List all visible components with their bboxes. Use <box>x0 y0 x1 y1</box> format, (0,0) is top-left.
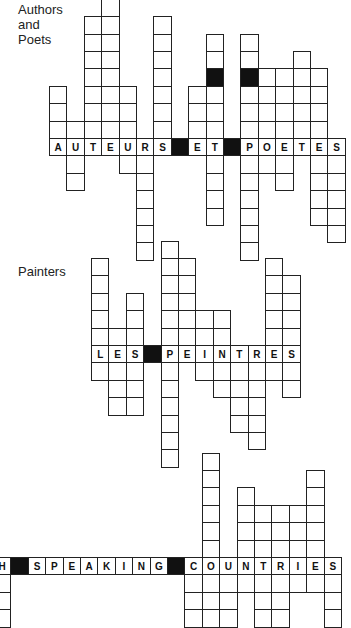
empty-cell[interactable] <box>126 310 144 328</box>
empty-cell[interactable] <box>324 574 342 592</box>
empty-cell[interactable] <box>237 505 255 523</box>
empty-cell[interactable] <box>66 173 84 191</box>
letter-cell[interactable]: R <box>271 557 289 575</box>
letter-cell[interactable]: T <box>230 345 248 363</box>
empty-cell[interactable] <box>136 173 154 191</box>
empty-cell[interactable] <box>254 540 272 558</box>
empty-cell[interactable] <box>0 574 11 592</box>
empty-cell[interactable] <box>310 173 328 191</box>
empty-cell[interactable] <box>101 68 119 86</box>
empty-cell[interactable] <box>91 258 109 276</box>
empty-cell[interactable] <box>230 415 248 433</box>
empty-cell[interactable] <box>237 487 255 505</box>
empty-cell[interactable] <box>275 68 293 86</box>
empty-cell[interactable] <box>240 51 258 69</box>
empty-cell[interactable] <box>254 592 272 610</box>
empty-cell[interactable] <box>119 86 137 104</box>
empty-cell[interactable] <box>91 362 109 380</box>
empty-cell[interactable] <box>310 190 328 208</box>
letter-cell[interactable]: E <box>63 557 81 575</box>
empty-cell[interactable] <box>161 415 179 433</box>
empty-cell[interactable] <box>161 258 179 276</box>
empty-cell[interactable] <box>108 380 126 398</box>
empty-cell[interactable] <box>153 34 171 52</box>
empty-cell[interactable] <box>202 574 220 592</box>
letter-cell[interactable]: A <box>49 138 67 156</box>
empty-cell[interactable] <box>265 275 283 293</box>
empty-cell[interactable] <box>289 505 307 523</box>
letter-cell[interactable]: C <box>184 557 202 575</box>
empty-cell[interactable] <box>84 68 102 86</box>
empty-cell[interactable] <box>230 397 248 415</box>
empty-cell[interactable] <box>153 103 171 121</box>
empty-cell[interactable] <box>84 51 102 69</box>
empty-cell[interactable] <box>161 310 179 328</box>
empty-cell[interactable] <box>213 362 231 380</box>
empty-cell[interactable] <box>293 103 311 121</box>
empty-cell[interactable] <box>188 121 206 139</box>
empty-cell[interactable] <box>153 51 171 69</box>
empty-cell[interactable] <box>275 155 293 173</box>
letter-cell[interactable]: S <box>28 557 46 575</box>
empty-cell[interactable] <box>178 258 196 276</box>
empty-cell[interactable] <box>202 505 220 523</box>
empty-cell[interactable] <box>126 397 144 415</box>
empty-cell[interactable] <box>310 68 328 86</box>
empty-cell[interactable] <box>101 51 119 69</box>
empty-cell[interactable] <box>282 380 300 398</box>
letter-cell[interactable]: T <box>206 138 224 156</box>
empty-cell[interactable] <box>84 16 102 34</box>
empty-cell[interactable] <box>275 173 293 191</box>
empty-cell[interactable] <box>271 609 289 627</box>
letter-cell[interactable]: S <box>282 345 300 363</box>
letter-cell[interactable]: E <box>101 138 119 156</box>
letter-cell[interactable]: G <box>150 557 168 575</box>
empty-cell[interactable] <box>230 362 248 380</box>
empty-cell[interactable] <box>258 86 276 104</box>
empty-cell[interactable] <box>271 592 289 610</box>
empty-cell[interactable] <box>84 34 102 52</box>
letter-cell[interactable]: E <box>306 557 324 575</box>
letter-cell[interactable]: E <box>188 138 206 156</box>
empty-cell[interactable] <box>293 68 311 86</box>
empty-cell[interactable] <box>265 328 283 346</box>
empty-cell[interactable] <box>213 380 231 398</box>
empty-cell[interactable] <box>327 190 345 208</box>
empty-cell[interactable] <box>248 415 266 433</box>
empty-cell[interactable] <box>178 293 196 311</box>
letter-cell[interactable]: A <box>80 557 98 575</box>
letter-cell[interactable]: I <box>115 557 133 575</box>
empty-cell[interactable] <box>327 155 345 173</box>
empty-cell[interactable] <box>184 592 202 610</box>
empty-cell[interactable] <box>275 103 293 121</box>
empty-cell[interactable] <box>265 258 283 276</box>
empty-cell[interactable] <box>275 86 293 104</box>
letter-cell[interactable]: E <box>310 138 328 156</box>
empty-cell[interactable] <box>184 574 202 592</box>
empty-cell[interactable] <box>91 293 109 311</box>
empty-cell[interactable] <box>136 190 154 208</box>
empty-cell[interactable] <box>161 241 179 259</box>
empty-cell[interactable] <box>324 609 342 627</box>
empty-cell[interactable] <box>108 362 126 380</box>
empty-cell[interactable] <box>310 103 328 121</box>
letter-cell[interactable]: K <box>97 557 115 575</box>
empty-cell[interactable] <box>153 86 171 104</box>
empty-cell[interactable] <box>282 275 300 293</box>
empty-cell[interactable] <box>248 380 266 398</box>
letter-cell[interactable]: S <box>327 138 345 156</box>
letter-cell[interactable]: T <box>84 138 102 156</box>
letter-cell[interactable]: R <box>136 138 154 156</box>
letter-cell[interactable]: T <box>254 557 272 575</box>
empty-cell[interactable] <box>153 16 171 34</box>
empty-cell[interactable] <box>219 609 237 627</box>
empty-cell[interactable] <box>136 208 154 226</box>
empty-cell[interactable] <box>161 449 179 467</box>
empty-cell[interactable] <box>282 328 300 346</box>
empty-cell[interactable] <box>271 540 289 558</box>
empty-cell[interactable] <box>119 121 137 139</box>
empty-cell[interactable] <box>101 16 119 34</box>
letter-cell[interactable]: S <box>153 138 171 156</box>
empty-cell[interactable] <box>237 574 255 592</box>
letter-cell[interactable]: P <box>240 138 258 156</box>
